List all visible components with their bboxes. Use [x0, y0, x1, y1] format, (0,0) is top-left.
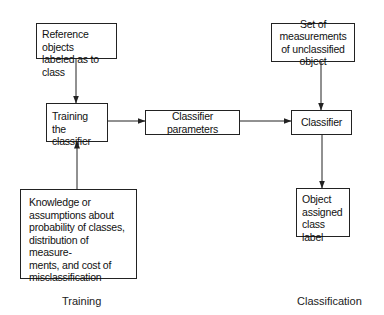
- node-label: Knowledge or assumptions about probabili…: [29, 196, 128, 284]
- node-object-assigned: Object assigned class label: [296, 188, 350, 237]
- node-label: Training the classifier: [52, 110, 102, 148]
- node-measurements: Set of measurements of unclassified obje…: [271, 23, 355, 62]
- node-label: Set of measurements of unclassified obje…: [272, 18, 354, 68]
- node-training-classifier: Training the classifier: [46, 103, 108, 142]
- node-reference-objects: Reference objects labeled as to class: [36, 23, 117, 59]
- node-label: Reference objects labeled as to class: [42, 28, 111, 78]
- section-label-training: Training: [62, 295, 101, 307]
- node-knowledge: Knowledge or assumptions about probabili…: [20, 189, 137, 279]
- node-label: Object assigned class label: [302, 193, 344, 243]
- node-label: Classifier parameters: [146, 110, 239, 135]
- section-label-classification: Classification: [297, 295, 362, 307]
- node-label: Classifier: [301, 116, 342, 129]
- node-classifier: Classifier: [291, 110, 352, 135]
- node-classifier-parameters: Classifier parameters: [145, 110, 240, 135]
